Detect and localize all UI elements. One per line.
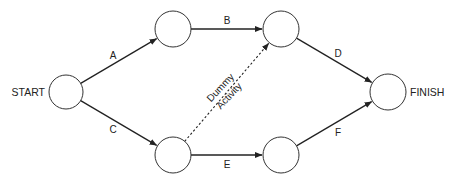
activity-label-a: A [110, 50, 117, 61]
node-finish [370, 74, 406, 110]
node-n4 [263, 137, 299, 173]
activity-label-d: D [334, 48, 341, 59]
activity-label-e: E [224, 159, 231, 170]
dummy-activity-label: Dummy Activity [204, 71, 244, 112]
network-diagram: STARTFINISH ABCDEF Dummy Activity [0, 0, 457, 185]
arrow-c [81, 101, 157, 146]
node-n3 [155, 137, 191, 173]
node-n2 [263, 11, 299, 47]
arrow-f [297, 102, 372, 146]
arrow-d [297, 38, 372, 82]
activity-label-c: C [109, 124, 116, 135]
activity-label-b: B [224, 15, 231, 26]
start-label: START [12, 86, 46, 98]
arrow-a [81, 39, 157, 84]
finish-label: FINISH [410, 86, 444, 98]
node-n1 [155, 11, 191, 47]
node-start [49, 75, 83, 109]
activity-label-f: F [335, 127, 341, 138]
